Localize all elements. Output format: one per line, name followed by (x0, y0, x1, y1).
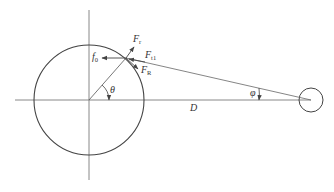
theta-angle-arc (102, 85, 109, 100)
diagram-svg (0, 0, 334, 192)
label-f0: f0 (92, 52, 98, 64)
label-FR: FR (141, 65, 151, 77)
label-phi: φ (250, 88, 256, 98)
force-diagram: f0 Fr Ft1 FR θ φ D (0, 0, 334, 192)
label-theta: θ (110, 85, 115, 95)
force-Ft1-arrow (129, 59, 145, 62)
radius-line (89, 58, 126, 100)
label-Ft1: Ft1 (145, 50, 156, 62)
label-Fr: Fr (133, 34, 141, 46)
connecting-line-D (126, 58, 311, 100)
label-D: D (190, 103, 197, 113)
force-Fr-arrow (126, 47, 134, 58)
